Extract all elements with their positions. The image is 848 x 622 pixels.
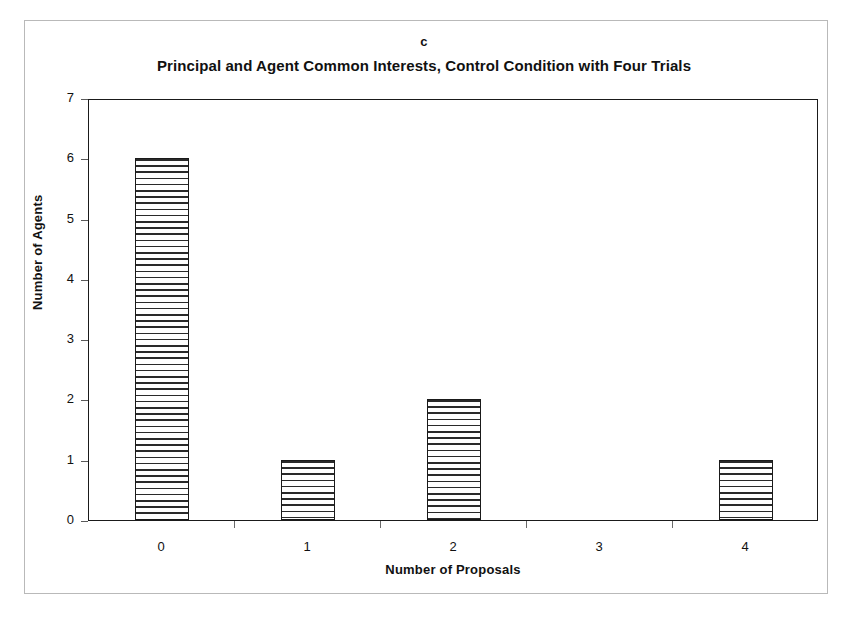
bar-4 [719, 460, 773, 520]
y-tick-label: 3 [34, 331, 74, 347]
y-tick-mark [81, 220, 88, 221]
x-tick-mark [672, 521, 673, 528]
y-tick-label: 4 [34, 271, 74, 287]
y-tick-mark [81, 159, 88, 160]
bar-1 [281, 460, 335, 520]
y-tick-mark [81, 400, 88, 401]
x-tick-label: 4 [685, 539, 805, 554]
chart-title: Principal and Agent Common Interests, Co… [0, 57, 848, 74]
x-tick-mark [380, 521, 381, 528]
y-tick-label: 1 [34, 452, 74, 468]
y-tick-label: 2 [34, 391, 74, 407]
y-tick-label: 0 [34, 512, 74, 528]
bar-0 [135, 158, 189, 520]
y-tick-label: 6 [34, 150, 74, 166]
x-tick-mark [234, 521, 235, 528]
y-tick-mark [81, 521, 88, 522]
plot-area [89, 100, 817, 520]
y-tick-mark [81, 340, 88, 341]
y-tick-label: 5 [34, 211, 74, 227]
x-tick-label: 2 [393, 539, 513, 554]
y-tick-mark [81, 99, 88, 100]
x-tick-mark [526, 521, 527, 528]
plot-frame [88, 99, 818, 521]
bar-2 [427, 399, 481, 520]
x-tick-label: 3 [539, 539, 659, 554]
y-tick-mark [81, 461, 88, 462]
x-tick-label: 0 [101, 539, 221, 554]
x-tick-label: 1 [247, 539, 367, 554]
y-axis-ticks: 01234567 [0, 99, 88, 521]
y-tick-mark [81, 280, 88, 281]
x-axis-ticks: 01234 [88, 521, 818, 591]
y-tick-label: 7 [34, 90, 74, 106]
panel-label: c [0, 34, 848, 49]
x-axis-title: Number of Proposals [88, 562, 818, 577]
